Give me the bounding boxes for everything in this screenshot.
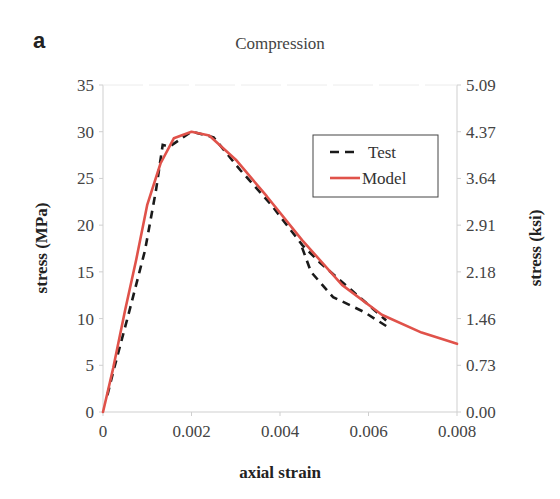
- y-tick-label-left: 5: [86, 356, 95, 375]
- y-tick-label-left: 30: [77, 123, 94, 142]
- x-tick-label: 0: [99, 422, 108, 441]
- legend-test-label: Test: [368, 143, 396, 162]
- y-tick-label-left: 15: [77, 263, 94, 282]
- x-tick-label: 0.008: [438, 422, 476, 441]
- legend-model-label: Model: [362, 169, 407, 188]
- axes: 00.0020.0040.0060.008051015202530350.000…: [77, 76, 496, 441]
- y-tick-label-right: 2.18: [466, 263, 496, 282]
- y-tick-label-right: 5.09: [466, 76, 496, 95]
- y-tick-label-left: 35: [77, 76, 94, 95]
- y-axis-label-left: stress (MPa): [32, 203, 51, 294]
- x-tick-label: 0.006: [349, 422, 387, 441]
- y-tick-label-right: 0.00: [466, 403, 496, 422]
- stress-strain-chart: 00.0020.0040.0060.008051015202530350.000…: [0, 0, 560, 499]
- y-tick-label-right: 0.73: [466, 356, 496, 375]
- x-tick-label: 0.004: [261, 422, 300, 441]
- y-tick-label-left: 20: [77, 216, 94, 235]
- y-axis-label-right: stress (ksi): [526, 210, 545, 287]
- y-tick-label-left: 0: [86, 403, 95, 422]
- legend: TestModel: [313, 135, 438, 197]
- x-axis-label: axial strain: [239, 463, 321, 482]
- chart-title: Compression: [235, 34, 325, 53]
- x-tick-label: 0.002: [172, 422, 210, 441]
- y-tick-label-right: 2.91: [466, 216, 496, 235]
- y-tick-label-left: 10: [77, 310, 94, 329]
- y-tick-label-right: 4.37: [466, 123, 496, 142]
- y-tick-label-right: 3.64: [466, 169, 496, 188]
- y-tick-label-left: 25: [77, 169, 94, 188]
- y-tick-label-right: 1.46: [466, 310, 496, 329]
